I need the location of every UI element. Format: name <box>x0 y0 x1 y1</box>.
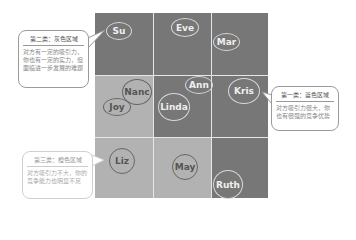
callout-blue-zone: 第一类：蓝色区域 对方吸引力很大，你也有很强的竞争优势 <box>271 86 339 131</box>
callout-orange-title: 第三类：橙色区域 <box>27 155 88 167</box>
callout-orange-body: 对方吸引力不大，你的竞争能力也明显不足 <box>27 169 88 185</box>
callout-blue-title: 第一类：蓝色区域 <box>276 90 334 102</box>
callout-gray-body: 对方有一定的吸引力，你也有一定的实力，但面临进一步发展的难题 <box>23 48 84 72</box>
callout-gray-zone: 第二类：灰色区域 对方有一定的吸引力，你也有一定的实力，但面临进一步发展的难题 <box>18 30 89 88</box>
callout-orange-zone: 第三类：橙色区域 对方吸引力不大，你的竞争能力也明显不足 <box>22 151 93 199</box>
callout-gray-title: 第二类：灰色区域 <box>23 34 84 46</box>
callout-blue-body: 对方吸引力很大，你也有很强的竞争优势 <box>276 104 334 120</box>
